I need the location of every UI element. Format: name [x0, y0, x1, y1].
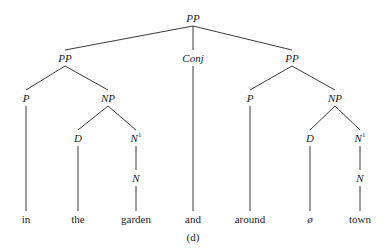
- leaf-w-town: town: [349, 214, 371, 225]
- node-label: PP: [285, 52, 298, 64]
- node-label: NP: [101, 92, 115, 104]
- node-pp-left: PP: [58, 53, 71, 64]
- tree-edge: [310, 106, 335, 130]
- node-label: town: [349, 213, 371, 225]
- leaf-w-garden: garden: [121, 214, 151, 225]
- node-label: around: [235, 213, 266, 225]
- node-label: the: [71, 213, 84, 225]
- tree-edge: [65, 66, 108, 90]
- node-d-right: D: [306, 133, 314, 144]
- node-label: P: [23, 92, 30, 104]
- node-np-right: NP: [328, 93, 342, 104]
- tree-edge: [193, 26, 292, 50]
- bar-level-superscript: 1: [138, 131, 142, 139]
- node-p-left: P: [23, 93, 30, 104]
- node-n-right: N: [356, 173, 363, 184]
- node-label: garden: [121, 213, 151, 225]
- node-nbar-right: N1: [355, 132, 366, 144]
- node-label: N: [132, 172, 139, 184]
- node-label: PP: [58, 52, 71, 64]
- leaf-w-around: around: [235, 214, 266, 225]
- node-label: NP: [328, 92, 342, 104]
- node-label: Conj: [182, 52, 203, 64]
- tree-edge: [65, 26, 193, 50]
- node-label: in: [22, 213, 31, 225]
- node-label: ø: [307, 213, 313, 225]
- node-label: P: [247, 92, 254, 104]
- node-label: and: [185, 213, 201, 225]
- tree-edge: [335, 106, 360, 130]
- node-label: PP: [186, 12, 199, 24]
- tree-edge: [250, 66, 292, 90]
- node-label: N: [356, 172, 363, 184]
- node-pp-right: PP: [285, 53, 298, 64]
- tree-edge: [78, 106, 108, 130]
- node-p-right: P: [247, 93, 254, 104]
- node-n-left: N: [132, 173, 139, 184]
- node-pp-root: PP: [186, 13, 199, 24]
- node-np-left: NP: [101, 93, 115, 104]
- leaf-w-the: the: [71, 214, 84, 225]
- node-nbar-left: N1: [131, 132, 142, 144]
- tree-edge: [26, 66, 65, 90]
- node-conj: Conj: [182, 53, 203, 64]
- leaf-w-in: in: [22, 214, 31, 225]
- node-label: D: [306, 132, 314, 144]
- node-d-left: D: [74, 133, 82, 144]
- leaf-w-null: ø: [307, 214, 313, 225]
- leaf-w-and: and: [185, 214, 201, 225]
- tree-edge: [292, 66, 335, 90]
- node-label: D: [74, 132, 82, 144]
- tree-edge: [108, 106, 136, 130]
- figure-caption: (d): [187, 232, 200, 243]
- bar-level-superscript: 1: [362, 131, 366, 139]
